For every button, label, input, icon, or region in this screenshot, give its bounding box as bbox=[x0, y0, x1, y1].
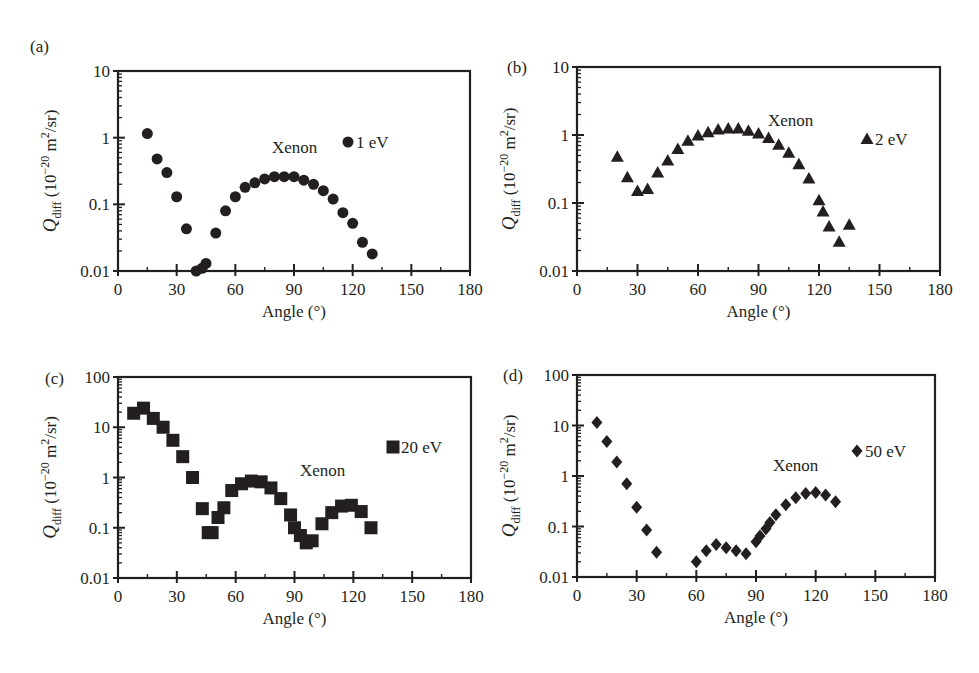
x-tick-label: 150 bbox=[867, 280, 893, 299]
data-point bbox=[347, 218, 358, 229]
data-point bbox=[210, 228, 221, 239]
data-point bbox=[289, 171, 300, 182]
x-tick-label: 120 bbox=[803, 586, 829, 605]
legend: 50 eV bbox=[852, 442, 907, 461]
figure-canvas: 0306090120150180Angle (°)0.010.1110Qdiff… bbox=[0, 0, 979, 673]
panel-label: (b) bbox=[507, 58, 527, 77]
panel-a: 0306090120150180Angle (°)0.010.1110Qdiff… bbox=[30, 37, 483, 321]
data-point bbox=[621, 171, 634, 183]
data-point bbox=[692, 129, 705, 141]
data-point bbox=[731, 544, 742, 557]
data-point bbox=[742, 124, 755, 136]
x-tick-label: 180 bbox=[457, 280, 483, 299]
data-point bbox=[318, 185, 329, 196]
x-tick-label: 30 bbox=[629, 280, 646, 299]
data-point bbox=[315, 517, 328, 530]
x-tick-label: 60 bbox=[227, 280, 244, 299]
y-axis-title: Qdiff (10−20 m2/sr) bbox=[38, 110, 64, 233]
x-tick-label: 180 bbox=[927, 280, 953, 299]
x-tick-label: 90 bbox=[286, 280, 303, 299]
legend: 1 eV bbox=[343, 133, 390, 152]
data-point bbox=[661, 154, 674, 166]
x-axis: 0306090120150180Angle (°) bbox=[114, 571, 484, 628]
series-1-ev bbox=[142, 128, 378, 276]
y-tick-label: 0.01 bbox=[539, 262, 569, 281]
data-point bbox=[651, 546, 662, 559]
y-tick-label: 100 bbox=[85, 368, 111, 387]
x-tick-label: 30 bbox=[168, 280, 185, 299]
x-tick-label: 150 bbox=[863, 586, 889, 605]
y-tick-label: 0.1 bbox=[89, 195, 110, 214]
data-point bbox=[279, 171, 290, 182]
y-tick-label: 0.01 bbox=[80, 262, 110, 281]
data-point bbox=[367, 248, 378, 259]
data-point bbox=[259, 173, 270, 184]
data-point bbox=[201, 258, 212, 269]
x-tick-label: 0 bbox=[573, 586, 582, 605]
data-point bbox=[152, 153, 163, 164]
data-point bbox=[792, 158, 805, 170]
data-point bbox=[732, 122, 745, 134]
panel-b: 0306090120150180Angle (°)0.010.1110Qdiff… bbox=[497, 58, 953, 321]
data-point bbox=[298, 175, 309, 186]
y-tick-label: 0.1 bbox=[89, 519, 110, 538]
data-point bbox=[611, 150, 624, 162]
y-axis-title: Qdiff (10−20 m2/sr) bbox=[497, 108, 523, 231]
y-tick-label: 0.01 bbox=[539, 568, 569, 587]
legend-label: 50 eV bbox=[865, 442, 907, 461]
y-axis-title: Qdiff (10−20 m2/sr) bbox=[38, 416, 64, 539]
data-point bbox=[711, 538, 722, 551]
legend-square-marker-icon bbox=[387, 441, 400, 454]
data-point bbox=[722, 122, 735, 134]
y-tick-label: 10 bbox=[552, 417, 569, 436]
data-point bbox=[181, 223, 192, 234]
data-point bbox=[166, 434, 179, 447]
y-tick-label: 0.01 bbox=[80, 569, 110, 588]
legend-label: 1 eV bbox=[356, 133, 389, 152]
data-point bbox=[355, 505, 368, 518]
x-tick-label: 30 bbox=[168, 587, 185, 606]
data-point bbox=[157, 421, 170, 434]
x-tick-label: 90 bbox=[750, 280, 767, 299]
data-point bbox=[142, 128, 153, 139]
data-point bbox=[800, 487, 811, 500]
y-axis: 0.010.1110100Qdiff (10−20 m2/sr) bbox=[497, 366, 584, 587]
y-tick-label: 10 bbox=[93, 418, 110, 437]
panel-label: (c) bbox=[45, 369, 64, 388]
data-point bbox=[171, 191, 182, 202]
data-point bbox=[813, 194, 826, 206]
data-point bbox=[631, 185, 644, 197]
x-tick-label: 90 bbox=[286, 587, 303, 606]
x-tick-label: 150 bbox=[399, 280, 425, 299]
y-tick-label: 10 bbox=[552, 58, 569, 77]
panel-label: (d) bbox=[503, 366, 523, 385]
series-50-ev bbox=[591, 416, 841, 568]
panel-d: 0306090120150180Angle (°)0.010.1110100Qd… bbox=[497, 366, 948, 627]
data-point bbox=[641, 183, 654, 195]
y-axis: 0.010.1110Qdiff (10−20 m2/sr) bbox=[38, 62, 125, 281]
data-point bbox=[217, 501, 230, 514]
xenon-annotation: Xenon bbox=[300, 461, 346, 480]
data-point bbox=[702, 126, 715, 138]
y-tick-label: 1 bbox=[561, 126, 570, 145]
data-point bbox=[306, 534, 319, 547]
data-point bbox=[721, 541, 732, 554]
x-axis-title: Angle (°) bbox=[262, 302, 326, 321]
data-point bbox=[196, 502, 209, 515]
xenon-annotation: Xenon bbox=[773, 456, 819, 475]
legend-circle-marker-icon bbox=[343, 137, 354, 148]
data-point bbox=[780, 498, 791, 511]
data-point bbox=[651, 166, 664, 178]
data-point bbox=[810, 486, 821, 499]
data-point bbox=[817, 205, 830, 217]
x-axis-title: Angle (°) bbox=[263, 609, 327, 628]
x-tick-label: 30 bbox=[628, 586, 645, 605]
data-point bbox=[701, 544, 712, 557]
x-axis-title: Angle (°) bbox=[724, 608, 788, 627]
data-point bbox=[691, 555, 702, 568]
x-tick-label: 150 bbox=[399, 587, 425, 606]
series-2-ev bbox=[611, 122, 856, 247]
legend: 2 eV bbox=[861, 130, 909, 149]
data-point bbox=[752, 127, 765, 139]
data-point bbox=[308, 179, 319, 190]
